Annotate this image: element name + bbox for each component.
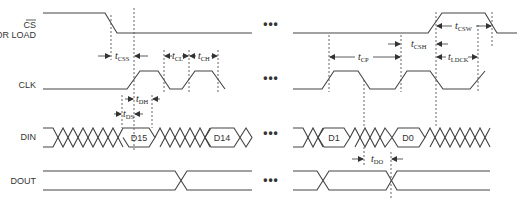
- t-csw: tCSW: [437, 20, 491, 32]
- cs-label: CS: [23, 20, 36, 30]
- t-dh: tDH: [125, 93, 160, 105]
- svg-text:tCSW: tCSW: [455, 20, 473, 32]
- bit-d0: D0: [402, 133, 414, 143]
- svg-text:tDO: tDO: [371, 153, 383, 165]
- svg-text:•••: •••: [263, 173, 279, 187]
- signal-labels: CS OR LOAD CLK DIN DOUT: [0, 20, 36, 186]
- timing-guides: [111, 8, 492, 198]
- svg-text:tDS: tDS: [123, 108, 134, 120]
- svg-text:tLDCK: tLDCK: [448, 51, 469, 63]
- svg-text:•••: •••: [263, 126, 279, 140]
- bit-d14: D14: [214, 133, 231, 143]
- svg-text:tCSH: tCSH: [411, 38, 427, 50]
- t-cl: tCL: [165, 50, 188, 62]
- t-csh: tCSH: [388, 38, 448, 50]
- t-css: tCSS: [98, 50, 148, 62]
- t-cp: tCP: [330, 51, 400, 63]
- svg-text:•••: •••: [263, 17, 279, 31]
- svg-text:tCL: tCL: [172, 50, 183, 62]
- din-label: DIN: [21, 132, 37, 142]
- t-ch: tCH: [190, 50, 217, 62]
- svg-text:tCSS: tCSS: [115, 50, 130, 62]
- t-do: tDO: [352, 153, 403, 165]
- svg-text:•••: •••: [263, 71, 279, 85]
- ellipsis-marks: ••• ••• ••• •••: [263, 17, 279, 187]
- svg-text:tDH: tDH: [136, 93, 148, 105]
- bit-d15: D15: [131, 133, 148, 143]
- or-load-label: OR LOAD: [0, 30, 36, 40]
- t-ds: tDS: [114, 108, 143, 120]
- timing-diagram: CS OR LOAD CLK DIN DOUT: [0, 0, 524, 201]
- t-ldck: tLDCK: [437, 51, 477, 63]
- dout-label: DOUT: [11, 176, 37, 186]
- bit-d1: D1: [328, 133, 340, 143]
- svg-text:tCP: tCP: [358, 51, 369, 63]
- clk-label: CLK: [18, 80, 36, 90]
- cs-waveform: [43, 13, 517, 33]
- svg-text:tCH: tCH: [198, 50, 210, 62]
